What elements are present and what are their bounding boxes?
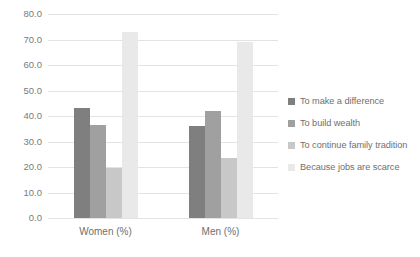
y-axis-tick-label: 70.0 xyxy=(0,34,42,45)
y-axis-tick-label: 40.0 xyxy=(0,110,42,121)
bar xyxy=(205,111,221,218)
bar xyxy=(90,125,106,218)
legend-swatch-icon xyxy=(288,98,295,105)
chart-legend: To make a differenceTo build wealthTo co… xyxy=(288,92,418,180)
bar xyxy=(106,168,122,218)
y-axis-tick-label: 30.0 xyxy=(0,136,42,147)
plot-area xyxy=(48,14,278,218)
x-axis-category-label: Men (%) xyxy=(163,226,278,237)
y-axis-tick-label: 20.0 xyxy=(0,161,42,172)
legend-item-label: Because jobs are scarce xyxy=(300,162,399,172)
gridline xyxy=(48,14,278,15)
bar xyxy=(237,42,253,218)
legend-swatch-icon xyxy=(288,120,295,127)
bar xyxy=(221,158,237,218)
x-axis-category-label: Women (%) xyxy=(48,226,163,237)
gridline xyxy=(48,40,278,41)
legend-swatch-icon xyxy=(288,164,295,171)
y-axis-tick-label: 10.0 xyxy=(0,187,42,198)
bar xyxy=(74,108,90,218)
bar-chart: 80.070.060.050.040.030.020.010.00.0 Wome… xyxy=(0,0,420,257)
y-axis-tick-label: 80.0 xyxy=(0,8,42,19)
y-axis-tick-label: 0.0 xyxy=(0,212,42,223)
legend-item-label: To continue family tradition xyxy=(300,140,407,150)
legend-item-label: To make a difference xyxy=(300,96,384,106)
legend-item-label: To build wealth xyxy=(300,118,360,128)
y-axis-tick-label: 50.0 xyxy=(0,85,42,96)
legend-item[interactable]: Because jobs are scarce xyxy=(288,158,418,176)
y-axis-tick-label: 60.0 xyxy=(0,59,42,70)
legend-swatch-icon xyxy=(288,142,295,149)
gridline xyxy=(48,218,278,219)
bar xyxy=(189,126,205,218)
legend-item[interactable]: To make a difference xyxy=(288,92,418,110)
legend-item[interactable]: To build wealth xyxy=(288,114,418,132)
legend-item[interactable]: To continue family tradition xyxy=(288,136,418,154)
bar xyxy=(122,32,138,218)
